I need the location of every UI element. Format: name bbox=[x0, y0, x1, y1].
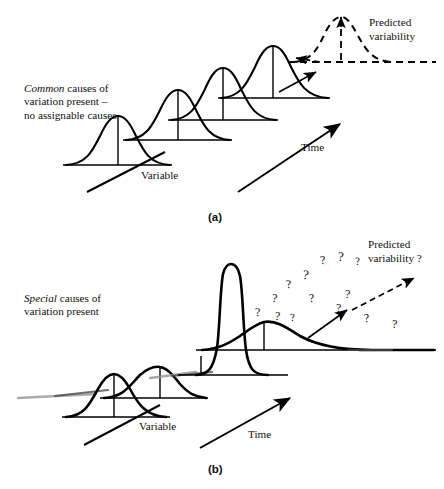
panel-b-time-axis bbox=[200, 398, 290, 448]
panel-b-curve-2 bbox=[104, 367, 206, 398]
question-mark-icon: ? bbox=[302, 268, 309, 282]
question-mark-icon: ? bbox=[336, 302, 342, 314]
panel-b-predicted-line1: Predicted bbox=[368, 238, 410, 250]
panel-a-note-emphasis: Common bbox=[24, 82, 64, 94]
question-mark-icon: ? bbox=[345, 288, 351, 300]
question-mark-icon: ? bbox=[338, 250, 344, 263]
panel-b-caption: (b) bbox=[208, 463, 223, 477]
panel-a-distribution-4 bbox=[218, 46, 330, 98]
panel-b-note-line1-rest: causes of bbox=[57, 292, 101, 304]
question-mark-icon: ? bbox=[355, 256, 360, 267]
panel-b-distribution-4 bbox=[196, 322, 436, 350]
panel-a-variable-label: Variable bbox=[141, 169, 178, 182]
question-mark-icon: ? bbox=[271, 292, 277, 304]
panel-b-time-label: Time bbox=[248, 428, 271, 441]
panel-a-note-line2: variation present – bbox=[24, 95, 107, 107]
panel-a-note-line3: no assignable causes bbox=[24, 109, 117, 121]
panel-a-prediction-arrow bbox=[279, 72, 316, 92]
panel-a-caption: (a) bbox=[208, 211, 222, 225]
panel-a-distribution-3 bbox=[168, 68, 278, 120]
panel-a-predicted-line2: variability bbox=[369, 30, 415, 42]
figure-root: Common causes ofvariation present –no as… bbox=[0, 0, 444, 489]
panel-a-curve-4 bbox=[221, 46, 328, 98]
panel-b-note-line2: variation present bbox=[24, 305, 99, 317]
panel-b-note: Special causes ofvariation present bbox=[24, 292, 101, 319]
panel-a-variable-label-text: Variable bbox=[141, 169, 178, 181]
question-mark-icon: ? bbox=[392, 318, 398, 330]
panel-b-caption-text: (b) bbox=[208, 463, 223, 475]
question-mark-icon: ? bbox=[363, 312, 369, 324]
panel-b-variable-label: Variable bbox=[139, 420, 176, 433]
panel-a-note-line1-rest: causes of bbox=[64, 82, 108, 94]
panel-b-curve-3 bbox=[196, 264, 268, 375]
question-mark-icon: ? bbox=[286, 278, 292, 290]
panel-b-variable-label-text: Variable bbox=[139, 420, 176, 432]
panel-b-distribution-3 bbox=[178, 264, 288, 375]
panel-b-note-emphasis: Special bbox=[24, 292, 57, 304]
panel-b-predicted-line2: variability ? bbox=[368, 252, 422, 264]
panel-b-curve-4 bbox=[202, 322, 434, 350]
panel-b-predicted-label: Predictedvariability ? bbox=[368, 238, 422, 265]
panel-a-distribution-2 bbox=[123, 90, 232, 140]
panel-a-time-axis bbox=[238, 124, 340, 192]
panel-a-note: Common causes ofvariation present –no as… bbox=[24, 82, 117, 122]
question-mark-icon: ? bbox=[319, 254, 326, 266]
question-mark-icon: ? bbox=[308, 292, 314, 304]
panel-a-time-label-text: Time bbox=[301, 141, 324, 153]
question-mark-icon: ? bbox=[255, 306, 261, 318]
panel-a-time-label: Time bbox=[301, 141, 324, 154]
panel-a-predicted-label: Predictedvariability bbox=[369, 16, 415, 43]
panel-b-predicted-arrow bbox=[352, 278, 414, 310]
panel-a-caption-text: (a) bbox=[208, 211, 222, 223]
panel-b-time-label-text: Time bbox=[248, 428, 271, 440]
panel-a-predicted-line1: Predicted bbox=[369, 16, 411, 28]
panel-b-uncertainty-arrow bbox=[308, 310, 347, 338]
question-mark-icon: ? bbox=[290, 312, 296, 323]
